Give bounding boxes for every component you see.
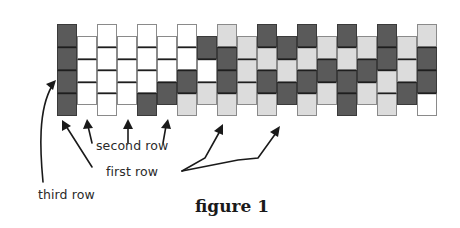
bead-column xyxy=(138,25,157,116)
bead xyxy=(238,60,257,82)
bead xyxy=(178,48,197,70)
bead xyxy=(218,94,237,116)
second-row-label: second row xyxy=(96,138,168,153)
arrowhead-icon xyxy=(123,119,133,129)
bead xyxy=(138,48,157,70)
bead xyxy=(198,60,217,82)
figure-caption: figure 1 xyxy=(195,196,269,216)
bead-column xyxy=(258,25,277,116)
third-row-arrow xyxy=(41,86,52,182)
bead xyxy=(138,71,157,93)
bead xyxy=(198,37,217,59)
bead xyxy=(78,83,97,105)
bead xyxy=(258,25,277,47)
bead xyxy=(258,94,277,116)
bead-column xyxy=(418,25,437,116)
bead-column xyxy=(178,25,197,116)
bead xyxy=(98,71,117,93)
arrowhead-icon xyxy=(161,119,171,129)
bead xyxy=(378,94,397,116)
bead xyxy=(218,71,237,93)
bead xyxy=(358,83,377,105)
bead-column xyxy=(318,37,337,105)
bead xyxy=(398,83,417,105)
bead-column xyxy=(378,25,397,116)
second-row-arrow-1 xyxy=(88,126,92,143)
bead xyxy=(118,83,137,105)
bead xyxy=(158,37,177,59)
bead xyxy=(358,37,377,59)
peyote-stitch-figure: second row first row third row figure 1 xyxy=(0,0,460,228)
bead xyxy=(138,94,157,116)
bead xyxy=(178,25,197,47)
bead xyxy=(418,48,437,70)
first-row-arrow-left xyxy=(66,126,92,167)
third-row-label: third row xyxy=(38,187,95,202)
bead xyxy=(158,83,177,105)
bead xyxy=(358,60,377,82)
bead xyxy=(378,25,397,47)
bead-column xyxy=(58,25,77,116)
bead xyxy=(278,37,297,59)
bead xyxy=(78,37,97,59)
bead-column xyxy=(298,25,317,116)
bead xyxy=(318,60,337,82)
bead xyxy=(338,25,357,47)
bead-column xyxy=(198,37,217,105)
bead xyxy=(238,37,257,59)
bead xyxy=(218,48,237,70)
arrowhead-icon xyxy=(62,120,71,131)
bead xyxy=(278,83,297,105)
bead-column xyxy=(218,25,237,116)
bead xyxy=(218,25,237,47)
bead xyxy=(378,71,397,93)
bead xyxy=(298,94,317,116)
arrowhead-icon xyxy=(83,119,93,129)
bead-column xyxy=(278,37,297,105)
bead xyxy=(118,60,137,82)
bead xyxy=(98,48,117,70)
bead-column xyxy=(118,37,137,105)
bead xyxy=(158,60,177,82)
first-row-label: first row xyxy=(106,164,158,179)
bead-columns xyxy=(58,25,437,116)
bead xyxy=(238,83,257,105)
bead xyxy=(418,94,437,116)
bead xyxy=(58,48,77,70)
bead xyxy=(138,25,157,47)
bead xyxy=(378,48,397,70)
bead xyxy=(318,83,337,105)
bead xyxy=(418,71,437,93)
bead xyxy=(178,94,197,116)
bead xyxy=(318,37,337,59)
bead xyxy=(258,71,277,93)
bead xyxy=(398,37,417,59)
bead xyxy=(338,71,357,93)
bead xyxy=(58,25,77,47)
bead-column xyxy=(78,37,97,105)
bead xyxy=(298,71,317,93)
bead-column xyxy=(398,37,417,105)
bead xyxy=(178,71,197,93)
bead-column xyxy=(98,25,117,116)
bead xyxy=(278,60,297,82)
bead-column xyxy=(358,37,377,105)
bead xyxy=(398,60,417,82)
bead xyxy=(298,48,317,70)
bead xyxy=(78,60,97,82)
bead xyxy=(118,37,137,59)
bead xyxy=(418,25,437,47)
bead-column xyxy=(338,25,357,116)
bead xyxy=(258,48,277,70)
bead xyxy=(58,94,77,116)
bead xyxy=(98,94,117,116)
bead xyxy=(338,94,357,116)
bead xyxy=(58,71,77,93)
bead xyxy=(198,83,217,105)
bead xyxy=(338,48,357,70)
first-row-arrow-right-2 xyxy=(182,133,276,171)
bead-column xyxy=(158,37,177,105)
bead xyxy=(298,25,317,47)
bead-column xyxy=(238,37,257,105)
bead xyxy=(98,25,117,47)
